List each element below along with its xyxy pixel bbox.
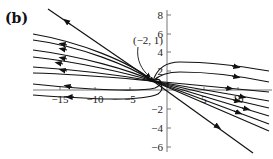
phase-portrait-plot: −15 −10 −5 5 10 8 6 4 2 −2 −4 −6 <box>0 0 273 159</box>
annotation-label: (−2, 1) <box>133 34 163 47</box>
panel-label: (b) <box>5 10 28 26</box>
y-tick-label: −6 <box>151 141 163 153</box>
y-tick-label: −4 <box>151 122 163 134</box>
y-tick-label: −2 <box>151 103 163 115</box>
y-tick-label: 4 <box>158 46 164 58</box>
y-tick-label: 8 <box>158 9 164 21</box>
phase-portrait-figure: (b) −15 −10 −5 <box>0 0 273 159</box>
x-tick-label: −15 <box>51 93 69 105</box>
